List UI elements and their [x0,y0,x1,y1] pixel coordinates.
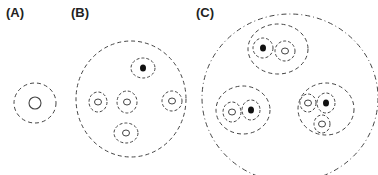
filled-core-dot [140,65,146,72]
panel-c-group-circle [216,86,270,134]
unit-boundary [117,91,137,113]
panel-a-outer-circle [14,83,56,123]
diagram-shapes [14,14,378,175]
open-core-circle [169,98,176,104]
open-core-circle [124,99,131,105]
panel-a-label: (A) [6,5,24,20]
panel-c-group-circle [248,24,308,74]
panel-c-group-circle [298,83,354,135]
open-core-circle [123,130,130,136]
unit-boundary [314,115,330,133]
panel-c-label: (C) [196,5,214,20]
open-core-circle [282,48,289,54]
nested-circles-diagram: (A) (B) (C) [0,0,378,175]
unit-boundary [89,92,107,112]
panel-c-outer-circle [202,14,378,175]
open-core-circle [305,100,312,106]
panel-a-inner-circle [29,97,41,109]
open-core-circle [319,121,326,127]
filled-core-dot [248,107,254,114]
unit-boundary [162,91,182,111]
diagram-canvas: (A) (B) (C) [0,0,378,175]
filled-core-dot [323,100,329,107]
unit-boundary [300,94,316,112]
unit-boundary [275,41,295,61]
panel-b-label: (B) [71,5,89,20]
open-core-circle [229,109,236,115]
unit-boundary [223,102,241,122]
open-core-circle [95,99,102,105]
unit-boundary [114,123,138,143]
filled-core-dot [260,45,266,52]
